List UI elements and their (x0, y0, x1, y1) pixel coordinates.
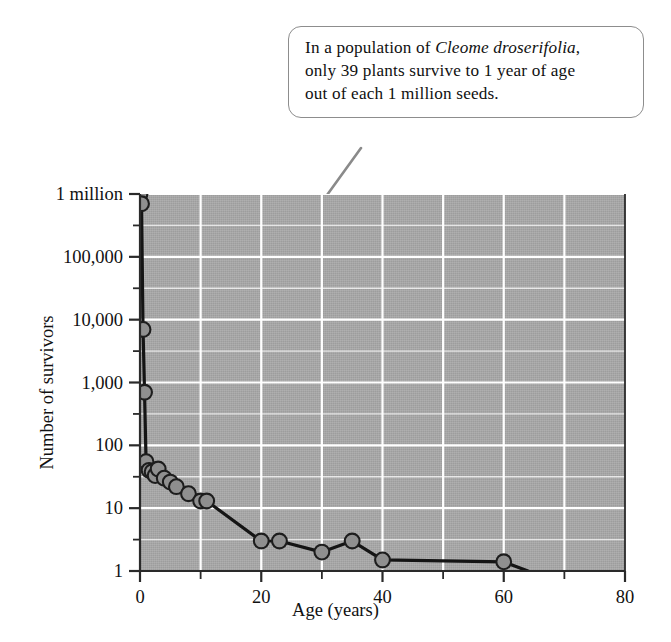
callout-box: In a population of Cleome droserifolia, … (288, 26, 644, 118)
callout-line1-pre: In a population of (305, 38, 435, 57)
data-point-marker (496, 554, 511, 569)
data-point-marker (140, 385, 152, 400)
data-point-marker (345, 534, 360, 549)
data-line (140, 194, 528, 571)
plot-panel (140, 194, 625, 571)
species-name: Cleome droserifolia (435, 38, 576, 57)
y-axis-title: Number of survivors (37, 268, 58, 518)
y-axis-tick-label: 10,000 (0, 309, 123, 330)
y-axis-tick-label: 1,000 (0, 372, 123, 393)
data-point-marker (254, 534, 269, 549)
data-point-marker (314, 545, 329, 560)
y-axis-tick-label: 100 (0, 435, 123, 456)
data-point-marker (375, 553, 390, 568)
y-axis-tick-label: 100,000 (0, 246, 123, 267)
data-point-marker (272, 534, 287, 549)
survivorship-curve (140, 194, 625, 571)
figure-root: In a population of Cleome droserifolia, … (0, 0, 671, 642)
data-point-marker (199, 494, 214, 509)
callout-text: In a population of Cleome droserifolia, … (305, 37, 629, 106)
data-point-marker (140, 322, 150, 337)
callout-line1-post: , (576, 38, 580, 57)
callout-line2: only 39 plants survive to 1 year of age (305, 61, 575, 80)
y-axis-tick-label: 10 (0, 498, 123, 519)
data-point-marker (140, 196, 149, 211)
callout-line3: out of each 1 million seeds. (305, 84, 499, 103)
y-axis-tick-label: 1 (0, 561, 123, 582)
y-axis-tick-label: 1 million (0, 184, 123, 205)
x-axis-title: Age (years) (0, 600, 671, 621)
